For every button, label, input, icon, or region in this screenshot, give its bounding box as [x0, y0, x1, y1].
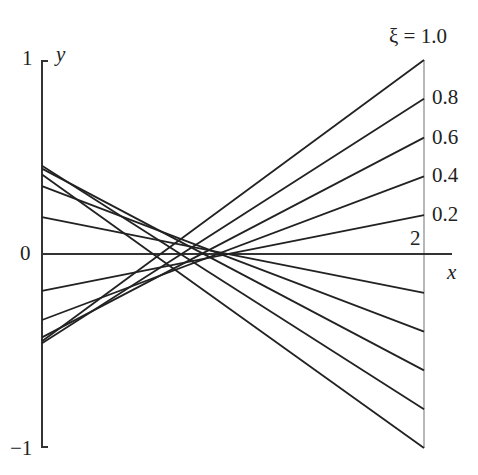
series-line — [42, 166, 424, 410]
series-line — [42, 186, 424, 332]
xi-label-1-0: ξ = 1.0 — [389, 26, 447, 47]
y-zero-tick-label: 0 — [20, 243, 31, 264]
xi-label-0-8: 0.8 — [432, 87, 458, 108]
xi-label-0-6: 0.6 — [432, 127, 458, 148]
series-line — [42, 175, 424, 449]
xi-label-0-4: 0.4 — [432, 165, 458, 186]
xi-label-0-2: 0.2 — [432, 204, 458, 225]
y-top-tick-label: 1 — [22, 48, 33, 69]
x-axis-label: x — [447, 262, 456, 283]
series-line — [42, 99, 424, 343]
chart-plot — [0, 0, 478, 475]
y-bottom-tick-label: −1 — [10, 438, 32, 459]
x-tick-label: 2 — [410, 228, 421, 249]
series-line — [42, 60, 424, 341]
y-axis-label: y — [56, 44, 65, 65]
